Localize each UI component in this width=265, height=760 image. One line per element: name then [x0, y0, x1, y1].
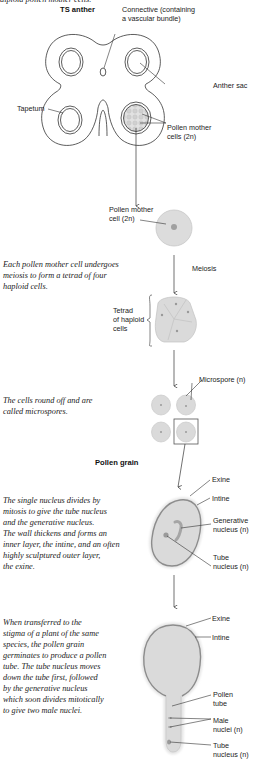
pollen-grain-caption-line7: the exine.: [3, 562, 35, 573]
generative-nucleus-label-line1: Generative: [213, 516, 248, 525]
pollen-grain-caption-line4: The wall thickens and forms an: [3, 529, 107, 540]
meiosis-label: Meiosis: [192, 264, 216, 273]
connective-label-line1: Connective (containing: [122, 5, 195, 14]
germination-caption-line9: to give two male nuclei.: [3, 706, 82, 717]
germ-tube-nucleus-label-line2: nucleus (n): [213, 750, 249, 759]
male-nuclei-label-line1: Male: [213, 716, 229, 725]
top-caption-fragment: diploid pollen mother cells.: [0, 0, 91, 4]
anther-cross-section: [42, 34, 165, 145]
germinating-pollen-grain: [144, 625, 201, 752]
tetrad-label-line3: cells: [113, 324, 127, 333]
pollen-grain-caption-line1: The single nucleus divides by: [3, 496, 100, 507]
pollen-mother-cell: [140, 210, 192, 246]
pollen-development-diagram: diploid pollen mother cells. TS anther C…: [0, 0, 265, 760]
anther-sac-label: Anther sac: [213, 81, 247, 90]
meiosis-caption-line1: Each pollen mother cell undergoes: [3, 260, 119, 271]
pollen-tube-label-line2: tube: [213, 699, 227, 708]
pmc-label-line1: Pollen mother: [109, 205, 153, 214]
connective-bundle: [100, 68, 106, 76]
pollen-tube-label-line1: Pollen: [213, 690, 233, 699]
microspore-caption-line2: called microspores.: [3, 407, 68, 418]
pollen-mother-cells-label-line1: Pollen mother: [167, 123, 211, 132]
tetrad-label-line1: Tetrad: [113, 306, 133, 315]
germination-caption-line8: which soon divides mitotically: [3, 695, 104, 706]
microspore-label: Microspore (n): [199, 375, 245, 384]
intine-label: Intine: [212, 494, 230, 503]
tube-nucleus-label-line1: Tube: [213, 553, 229, 562]
pollen-mother-cells-label-line2: cells (2n): [167, 132, 196, 141]
meiosis-caption-line3: haploid cells.: [3, 282, 48, 293]
pmc-label-line2: cell (2n): [109, 214, 135, 223]
male-nuclei-label-line2: nuclei (n): [213, 725, 243, 734]
exine-label: Exine: [212, 475, 230, 484]
tetrad-bracket: [147, 295, 152, 346]
microspores: [152, 395, 196, 442]
meiosis-caption-line2: meiosis to form a tetrad of four: [3, 271, 107, 282]
tetrad: [155, 297, 196, 342]
germ-intine-label: Intine: [212, 633, 230, 642]
generative-nucleus-label-line2: nucleus (n): [213, 525, 249, 534]
arrow-to-pollen-grain: [178, 444, 185, 487]
pollen-grain-title: Pollen grain: [95, 458, 138, 467]
ts-anther-title: TS anther: [60, 5, 95, 14]
germ-tube-nucleus-label-line1: Tube: [213, 741, 229, 750]
pollen-grain-caption-line3: and the generative nucleus.: [3, 518, 94, 529]
germination-caption-line1: When transferred to the: [3, 618, 82, 629]
germination-caption-line3: species, the pollen grain: [3, 640, 84, 651]
connective-label-line2: a vascular bundle): [122, 14, 181, 23]
germination-caption-line5: tube. The tube nucleus moves: [3, 662, 100, 673]
germ-exine-label: Exine: [212, 614, 230, 623]
germination-caption-line2: stigma of a plant of the same: [3, 629, 99, 640]
pollen-grain-caption-line5: inner layer, the intine, and an often: [3, 540, 120, 551]
germination-caption-line7: by the generative nucleus: [3, 684, 88, 695]
tetrad-label-line2: of haploid: [113, 315, 144, 324]
tube-nucleus-label-line2: nucleus (n): [213, 562, 249, 571]
tapetum-label: Tapetum: [17, 104, 45, 113]
pollen-grain-caption-line6: highly sculptured outer layer,: [3, 551, 100, 562]
pollen-grain-caption-line2: mitosis to give the tube nucleus: [3, 507, 107, 518]
microspore-caption-line1: The cells round off and are: [3, 396, 93, 407]
germination-caption-line6: down the tube first, followed: [3, 673, 98, 684]
germination-caption-line4: germinates to produce a pollen: [3, 651, 106, 662]
pollen-grain: [152, 500, 201, 566]
